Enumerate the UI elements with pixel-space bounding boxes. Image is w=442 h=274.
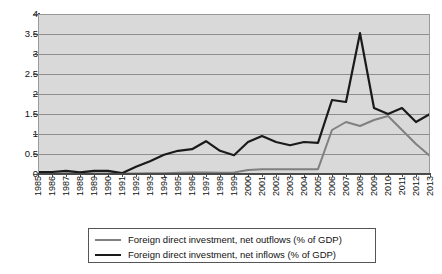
x-axis-tick-label: 1994 [160, 176, 169, 196]
x-axis-tick-label: 2006 [328, 176, 337, 196]
x-axis-tick-label: 1995 [174, 176, 183, 196]
x-axis-tick-label: 1986 [48, 176, 57, 196]
x-axis-tick-label: 2002 [272, 176, 281, 196]
x-axis-tick-label: 2000 [244, 176, 253, 196]
legend-label-net-outflows: Foreign direct investment, net outflows … [128, 234, 342, 245]
x-axis-tick-label: 1997 [202, 176, 211, 196]
legend-item-net-inflows: Foreign direct investment, net inflows (… [95, 247, 369, 262]
x-axis: 1985198619871988198919901991199219931994… [38, 176, 430, 220]
x-axis-tick-label: 2005 [314, 176, 323, 196]
x-axis-tick-label: 2004 [300, 176, 309, 196]
x-axis-tick-label: 1998 [216, 176, 225, 196]
y-axis: 00.511.522.533.54 [0, 0, 38, 190]
x-axis-tick-label: 1989 [90, 176, 99, 196]
x-axis-tick-label: 1999 [230, 176, 239, 196]
legend-swatch-net-outflows [95, 239, 121, 241]
x-axis-tick-label: 1993 [146, 176, 155, 196]
x-axis-tick-label: 2008 [356, 176, 365, 196]
plot-area [38, 14, 430, 174]
chart-legend: Foreign direct investment, net outflows … [88, 228, 376, 263]
x-axis-tick-label: 1987 [62, 176, 71, 196]
x-axis-tick-label: 1991 [118, 176, 127, 196]
x-axis-tick-label: 1985 [34, 176, 43, 196]
x-axis-tick-label: 2010 [384, 176, 393, 196]
x-axis-tick-label: 2012 [412, 176, 421, 196]
x-axis-tick-label: 1992 [132, 176, 141, 196]
x-axis-tick-label: 2009 [370, 176, 379, 196]
legend-label-net-inflows: Foreign direct investment, net inflows (… [128, 249, 336, 260]
x-axis-tick-label: 2003 [286, 176, 295, 196]
x-axis-tick-label: 1990 [104, 176, 113, 196]
x-axis-tick-label: 2011 [398, 176, 407, 195]
legend-item-net-outflows: Foreign direct investment, net outflows … [95, 232, 369, 247]
x-axis-tick-label: 2007 [342, 176, 351, 196]
fdi-line-chart: 00.511.522.533.54 1985198619871988198919… [0, 0, 442, 274]
x-axis-tick-label: 1996 [188, 176, 197, 196]
x-axis-tick-label: 2013 [426, 176, 435, 196]
x-axis-tick-label: 2001 [258, 176, 267, 196]
legend-swatch-net-inflows [95, 254, 121, 256]
plot-border [38, 14, 430, 174]
x-axis-tick-label: 1988 [76, 176, 85, 196]
